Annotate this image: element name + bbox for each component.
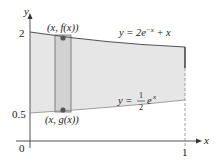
- approximating-strip: [55, 35, 71, 112]
- x-axis-arrow-icon: [196, 139, 202, 144]
- svg-text:y =: y =: [117, 95, 132, 106]
- y-tick-2: 2: [19, 27, 25, 39]
- shaded-region: [30, 32, 185, 113]
- upper-curve-label: y = 2e−x + x: [118, 26, 171, 38]
- point-f: [60, 35, 65, 40]
- point-g: [60, 107, 65, 112]
- svg-text:1: 1: [139, 91, 143, 100]
- point-f-label: (x, f(x)): [47, 22, 79, 34]
- y-axis-label: y: [23, 5, 29, 17]
- origin-label: 0: [19, 142, 25, 154]
- area-between-curves-diagram: y x 0 1 2 0.5 (x, f(x)) (x, g(x)) y = 2e…: [0, 0, 216, 162]
- x-axis-label: x: [203, 134, 209, 146]
- y-tick-0.5: 0.5: [12, 108, 26, 120]
- point-g-label: (x, g(x)): [45, 114, 79, 126]
- x-tick-1: 1: [182, 146, 188, 158]
- svg-text:e: e: [147, 95, 152, 106]
- svg-text:2: 2: [139, 103, 143, 112]
